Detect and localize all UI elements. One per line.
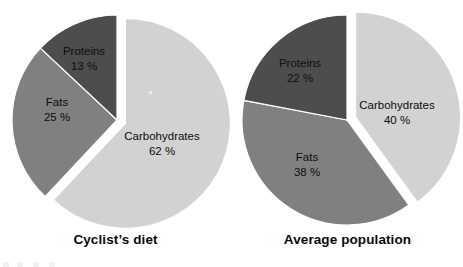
- pie-slice-value-carbohydrates: 62 %: [149, 145, 175, 157]
- chart-title-average-population: Average population: [232, 232, 463, 247]
- pie-slice-value-proteins: 13 %: [71, 60, 97, 72]
- chart-panel-average-population: Carbohydrates40 %Fats38 %Proteins22 % Av…: [232, 0, 463, 267]
- pie-slice-value-carbohydrates: 40 %: [384, 114, 410, 126]
- pie-chart-cyclist-diet: Carbohydrates62 %Fats25 %Proteins13 %: [0, 0, 231, 230]
- pie-slice-value-proteins: 22 %: [287, 72, 313, 84]
- pie-slice-label-fats: Fats: [46, 96, 69, 108]
- pie-slice-value-fats: 25 %: [44, 111, 70, 123]
- pie-chart-average-population: Carbohydrates40 %Fats38 %Proteins22 %: [232, 0, 463, 230]
- pie-slice-label-proteins: Proteins: [279, 57, 321, 69]
- pie-slice-value-fats: 38 %: [294, 166, 320, 178]
- chart-panel-cyclist-diet: Carbohydrates62 %Fats25 %Proteins13 % Cy…: [0, 0, 231, 267]
- pie-slice-label-carbohydrates: Carbohydrates: [359, 99, 435, 111]
- pie-slice-label-proteins: Proteins: [63, 45, 105, 57]
- scan-edge-artifact: [3, 262, 65, 267]
- pie-slice-label-fats: Fats: [296, 151, 319, 163]
- pie-slice-label-carbohydrates: Carbohydrates: [124, 130, 200, 142]
- image-artifact-dot: [149, 91, 152, 94]
- pie-chart-figure: Carbohydrates62 %Fats25 %Proteins13 % Cy…: [0, 0, 463, 267]
- chart-title-cyclist-diet: Cyclist’s diet: [0, 232, 231, 247]
